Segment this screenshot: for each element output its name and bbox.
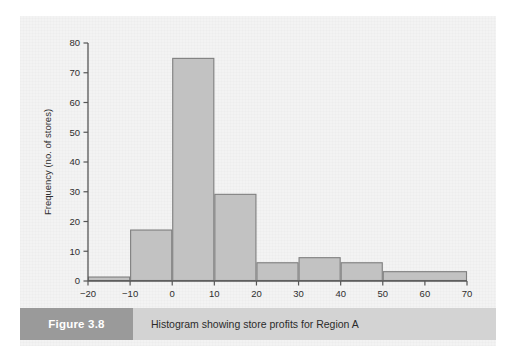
y-axis-tick-label: 30 [69,186,80,197]
y-axis-tick-label: 60 [69,97,80,108]
y-axis-tick-label: 80 [69,37,80,48]
figure-caption-text: Histogram showing store profits for Regi… [133,308,496,340]
y-axis-tick-label: 40 [69,156,80,167]
x-axis-tick-label: 70 [462,288,473,298]
x-axis-tick-label: −10 [122,288,138,298]
histogram-bar [131,230,172,280]
x-axis-tick-label: 0 [170,288,175,298]
x-axis-tick-label: −20 [80,288,96,298]
figure-number-tag: Figure 3.8 [20,308,133,340]
histogram-chart: −20−10010203040506070 01020304050607080 … [20,16,496,298]
histogram-bar [299,258,340,281]
x-axis-tick-label: 30 [293,288,304,298]
x-axis-tick-label: 50 [377,288,388,298]
x-axis-ticks: −20−10010203040506070 [80,281,472,298]
histogram-bar [257,263,298,281]
histogram-svg: −20−10010203040506070 01020304050607080 … [20,16,496,298]
histogram-bar [173,58,214,280]
scanned-page-panel: −20−10010203040506070 01020304050607080 … [20,16,496,346]
y-axis-tick-label: 20 [69,216,80,227]
figure-page: −20−10010203040506070 01020304050607080 … [0,0,516,362]
y-axis-tick-label: 0 [75,275,80,286]
histogram-bar [215,194,256,280]
y-axis-tick-label: 10 [69,246,80,257]
y-axis-tick-label: 70 [69,67,80,78]
figure-caption-bar: Figure 3.8 Histogram showing store profi… [20,308,496,340]
y-axis-tick-label: 50 [69,127,80,138]
x-axis-tick-label: 60 [420,288,431,298]
x-axis-tick-label: 20 [251,288,262,298]
y-axis-ticks: 01020304050607080 [69,37,88,286]
x-axis-tick-label: 10 [209,288,220,298]
y-axis-label: Frequency (no. of stores) [42,109,53,215]
histogram-bar [383,272,466,281]
bars-group [89,58,467,280]
histogram-bar [89,277,130,280]
histogram-bar [341,263,382,281]
x-axis-tick-label: 40 [335,288,346,298]
